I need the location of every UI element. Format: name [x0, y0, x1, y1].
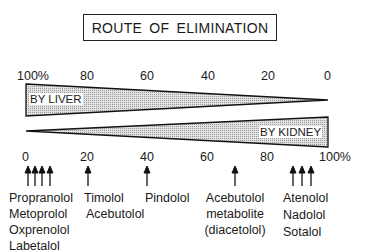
drug-name: Sotalol [283, 224, 328, 240]
drug-group-acebutolol-metabolite: Acebutolol metabolite (diacetolol) [197, 190, 273, 238]
drug-group-pindolol: Pindolol [145, 190, 189, 206]
drug-name: Timolol [84, 190, 144, 206]
drug-name: Metoprolol [9, 206, 73, 222]
bottom-tick-80: 80 [260, 150, 274, 164]
arrow-icon [232, 166, 238, 186]
drug-name: Atenolol [283, 190, 328, 206]
drug-name: metabolite [197, 206, 273, 222]
bottom-tick-40: 40 [140, 150, 154, 164]
bottom-tick-0: 0 [22, 150, 29, 164]
drug-name: Pindolol [145, 190, 189, 206]
bottom-tick-20: 20 [80, 150, 94, 164]
drug-name: (diacetolol) [197, 222, 273, 238]
bottom-tick-100: 100% [319, 150, 351, 164]
arrow-icon [308, 166, 314, 186]
arrow-icon [299, 166, 305, 186]
drug-group-liver-dominant: Propranolol Metoprolol Oxprenolol Labeta… [9, 190, 73, 252]
drug-name: Acebutolol [197, 190, 273, 206]
liver-label: BY LIVER [29, 93, 83, 105]
arrow-icon [25, 166, 31, 186]
drug-name: Nadolol [283, 207, 328, 223]
drug-name: Propranolol [9, 190, 73, 206]
bottom-tick-60: 60 [200, 150, 214, 164]
drug-name: Oxprenolol [9, 222, 73, 238]
drug-group-kidney-dominant: Atenolol Nadolol Sotalol [283, 190, 328, 240]
drug-name: Acebutolol [86, 206, 144, 222]
arrow-icon [39, 166, 45, 186]
kidney-label: BY KIDNEY [259, 126, 322, 138]
drug-name: Labetalol [9, 238, 73, 252]
drug-group-timolol: Timolol Acebutolol [84, 190, 144, 222]
arrow-icon [47, 166, 53, 186]
arrow-icon [144, 166, 150, 186]
arrow-icon [32, 166, 38, 186]
arrow-icon [290, 166, 296, 186]
arrow-icon [85, 166, 91, 186]
arrows [25, 166, 314, 186]
